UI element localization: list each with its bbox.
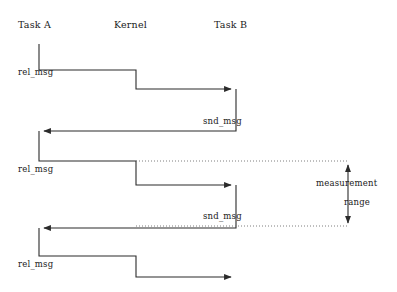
message-label-snd-msg-1: snd_msg: [203, 116, 242, 126]
message-path-a-to-b-1: [39, 70, 231, 89]
column-header-kernel: Kernel: [114, 20, 147, 30]
message-label-rel-msg-1: rel_msg: [18, 67, 53, 77]
diagram-vector-layer: [0, 0, 397, 292]
message-path-a-to-b-2: [39, 131, 231, 185]
message-path-b-to-a-2: [44, 185, 236, 228]
measurement-range-label-line1: measurement: [316, 178, 377, 188]
column-header-task-b: Task B: [214, 20, 247, 30]
message-label-rel-msg-3: rel_msg: [18, 259, 53, 269]
message-label-rel-msg-2: rel_msg: [18, 164, 53, 174]
sequence-diagram: Task A Kernel Task B rel_msg snd_msg rel…: [0, 0, 397, 292]
message-label-snd-msg-2: snd_msg: [203, 211, 242, 221]
column-header-task-a: Task A: [18, 20, 51, 30]
message-path-a-to-b-3: [39, 228, 231, 277]
measurement-range-label-line2: range: [344, 197, 370, 207]
